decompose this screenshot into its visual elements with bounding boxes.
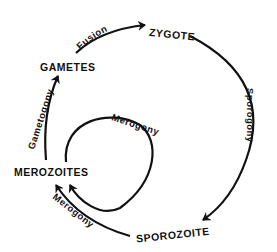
process-gametogony: Gametogony [25, 87, 55, 151]
stage-merozoites: MEROZOITES [14, 166, 88, 178]
sporogony-arrow [190, 36, 253, 220]
process-merogony-inner: Merogony [110, 111, 161, 137]
stage-sporozoite: SPOROZOITE [136, 225, 211, 245]
life-cycle-diagram: ZYGOTE GAMETES MEROZOITES SPOROZOITE Fus… [0, 0, 277, 252]
process-fusion: Fusion [74, 23, 109, 52]
stage-zygote: ZYGOTE [148, 26, 195, 43]
merogony-inner-loop [66, 118, 153, 211]
stage-gametes: GAMETES [40, 61, 95, 73]
process-merogony-outer: Merogony [51, 191, 97, 230]
process-sporogony: Sporogony [245, 88, 256, 143]
